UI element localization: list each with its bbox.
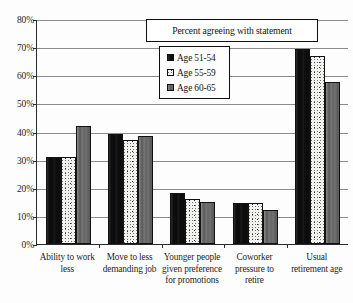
x-axis-label: Usualretirement age	[282, 252, 352, 275]
y-axis-tick-label: 60%	[0, 71, 34, 81]
y-axis-tick-label: 10%	[0, 212, 34, 222]
legend-item: Age 51-54	[167, 50, 229, 65]
y-axis-tick-label: 50%	[0, 99, 34, 109]
y-axis-tick-label: 40%	[0, 128, 34, 138]
bar	[138, 136, 153, 244]
bar-group	[37, 20, 99, 244]
legend-swatch-icon	[167, 54, 174, 61]
bar	[248, 203, 263, 244]
bar	[185, 199, 200, 244]
bar-chart: Percent agreeing with statement Age 51-5…	[0, 0, 353, 303]
chart-title: Percent agreeing with statement	[172, 25, 292, 36]
legend-item: Age 55-59	[167, 65, 229, 80]
bar	[108, 134, 123, 244]
x-axis-label: Coworkerpressure toretire	[219, 252, 289, 287]
bar	[76, 126, 91, 244]
x-axis-tick-mark	[224, 244, 225, 248]
bar	[61, 157, 76, 244]
legend-swatch-icon	[167, 69, 174, 76]
bar	[233, 203, 248, 244]
bar-group	[287, 20, 349, 244]
legend-item: Age 60-65	[167, 80, 229, 95]
x-axis-tick-mark	[287, 244, 288, 248]
x-axis-tick-mark	[99, 244, 100, 248]
x-axis-label: Move to lessdemanding job	[94, 252, 164, 275]
legend-swatch-icon	[167, 84, 174, 91]
bar-group	[99, 20, 161, 244]
x-axis-labels: Ability to worklessMove to lessdemanding…	[36, 252, 348, 302]
bar-group	[224, 20, 286, 244]
legend-label: Age 55-59	[177, 68, 216, 78]
y-axis-tick-label: 30%	[0, 156, 34, 166]
bar	[310, 56, 325, 244]
bar	[295, 49, 310, 244]
x-axis-tick-mark	[162, 244, 163, 248]
bar	[123, 140, 138, 244]
x-axis-label: Younger peoplegiven preferencefor promot…	[157, 252, 227, 287]
y-axis-tick-label: 20%	[0, 184, 34, 194]
y-axis-tick-label: 70%	[0, 43, 34, 53]
x-axis-label: Ability to workless	[32, 252, 102, 275]
bar	[46, 157, 61, 244]
y-axis-tick-label: 0%	[0, 240, 34, 250]
bar	[263, 210, 278, 244]
chart-title-box: Percent agreeing with statement	[146, 19, 318, 42]
bar	[170, 193, 185, 244]
y-axis-tick-label: 80%	[0, 15, 34, 25]
legend-label: Age 51-54	[177, 53, 216, 63]
legend-label: Age 60-65	[177, 83, 216, 93]
bar	[325, 82, 340, 244]
chart-legend: Age 51-54Age 55-59Age 60-65	[159, 46, 230, 99]
bar	[200, 202, 215, 244]
